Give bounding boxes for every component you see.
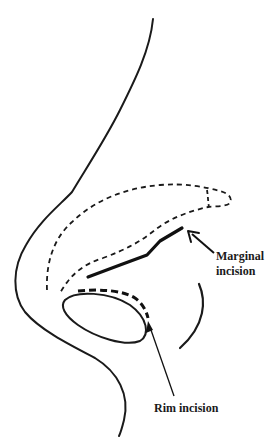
nose-diagram: Marginal incision Rim incision (0, 0, 276, 442)
marginal-incision-line (88, 228, 182, 277)
rim-incision-label: Rim incision (154, 401, 218, 416)
marginal-arrow (188, 231, 214, 253)
nasal-profile-outline (15, 19, 153, 436)
nostril-outline (63, 294, 146, 343)
diagram-svg (0, 0, 276, 442)
dome-dashed-loop (207, 190, 209, 207)
marginal-incision-label: Marginal incision (216, 249, 264, 279)
rim-arrow (146, 321, 174, 396)
marginal-label-line1: Marginal (216, 249, 264, 264)
lateral-crus-dashed-outline (47, 184, 231, 293)
alar-crease-curve (180, 284, 203, 348)
marginal-label-line2: incision (216, 264, 264, 279)
